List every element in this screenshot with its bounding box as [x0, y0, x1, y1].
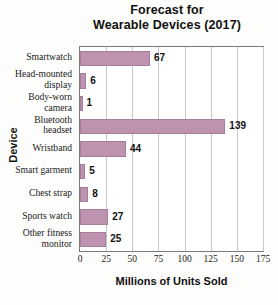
x-axis-tick-label: 175 [256, 254, 270, 264]
bar-row: 44 [80, 138, 263, 161]
bar-value-label: 67 [154, 50, 165, 66]
bar[interactable] [80, 164, 85, 179]
x-axis-tick-label: 100 [177, 254, 191, 264]
x-axis-title: Millions of Units Sold [79, 275, 264, 287]
bar[interactable] [80, 209, 108, 224]
bar[interactable] [80, 187, 88, 202]
x-axis-tick-label: 25 [101, 254, 111, 264]
bar-value-label: 25 [110, 231, 121, 247]
x-axis-tick-label: 75 [154, 254, 164, 264]
y-axis-tick-label: Other fitnessmonitor [0, 228, 72, 249]
y-axis-tick-label: Body-worncamera [0, 92, 72, 113]
bar-value-label: 139 [229, 118, 246, 134]
plot-area: 676113944582725 [79, 46, 264, 252]
bar-row: 25 [80, 228, 263, 251]
chart-title: Forecast for Wearable Devices (2017) [60, 3, 274, 32]
x-axis-tick-label: 0 [78, 254, 83, 264]
bar-chart: Forecast for Wearable Devices (2017) Dev… [0, 0, 278, 305]
bar-row: 27 [80, 206, 263, 229]
bar-row: 139 [80, 115, 263, 138]
y-axis-tick-label: Chest strap [0, 188, 72, 199]
x-axis-tick-label: 125 [204, 254, 218, 264]
y-axis-tick-label: Sports watch [0, 211, 72, 222]
bar-row: 1 [80, 92, 263, 115]
bar[interactable] [80, 51, 150, 66]
bar[interactable] [80, 73, 86, 88]
chart-title-line-2: Wearable Devices (2017) [60, 18, 274, 33]
bar[interactable] [80, 232, 106, 247]
bar-row: 6 [80, 70, 263, 93]
gridline [263, 47, 264, 251]
x-axis-tick-label: 150 [230, 254, 244, 264]
y-axis-tick-label: Wristband [0, 143, 72, 154]
y-axis-tick-label: Bluetoothheadset [0, 115, 72, 136]
bar[interactable] [80, 96, 83, 111]
bar[interactable] [80, 119, 225, 134]
chart-title-line-1: Forecast for [60, 3, 274, 18]
bar-value-label: 6 [90, 73, 96, 89]
bar-value-label: 1 [87, 95, 93, 111]
bar-series: 676113944582725 [80, 47, 263, 251]
bar-value-label: 8 [92, 186, 98, 202]
y-axis-tick-label: Smart garment [0, 165, 72, 176]
bar-value-label: 5 [89, 163, 95, 179]
bar-row: 5 [80, 160, 263, 183]
y-axis-tick-labels: SmartwatchHead-mounteddisplayBody-wornca… [0, 46, 76, 252]
x-axis-tick-labels: 0255075100125150175 [79, 254, 264, 270]
y-axis-tick-label: Smartwatch [0, 52, 72, 63]
y-axis-tick-label: Head-mounteddisplay [0, 69, 72, 90]
bar-value-label: 44 [130, 141, 141, 157]
bar-row: 67 [80, 47, 263, 70]
bar-value-label: 27 [112, 209, 123, 225]
x-axis-tick-label: 50 [128, 254, 138, 264]
bar-row: 8 [80, 183, 263, 206]
bar[interactable] [80, 141, 126, 156]
